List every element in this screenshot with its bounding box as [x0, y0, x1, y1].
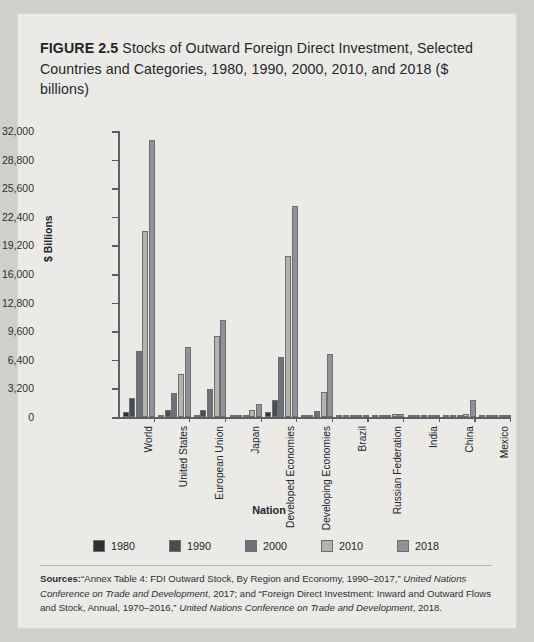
- y-tick-label: 16,000: [2, 268, 34, 280]
- x-tick: [154, 417, 155, 422]
- sources-heading: Sources:: [40, 573, 81, 584]
- x-tick: [403, 417, 404, 422]
- bar-group: [408, 131, 440, 417]
- bar: [379, 415, 385, 417]
- x-tick-label: European Union: [214, 426, 225, 500]
- sources-text-3: , 2018.: [413, 602, 442, 613]
- sources-note: Sources:“Annex Table 4: FDI Outward Stoc…: [40, 572, 496, 616]
- bar: [392, 414, 398, 417]
- bar-group: [265, 131, 297, 417]
- x-tick: [474, 417, 475, 422]
- bar: [327, 354, 333, 417]
- x-axis-line: [118, 417, 511, 419]
- bar: [421, 415, 427, 417]
- bar: [230, 415, 236, 417]
- y-tick-label: 0: [28, 411, 34, 423]
- bar: [292, 206, 298, 417]
- bar: [249, 410, 255, 417]
- y-tick-label: 25,600: [2, 182, 34, 194]
- legend-swatch: [397, 540, 409, 552]
- bar-group: [372, 131, 404, 417]
- bar: [314, 411, 320, 417]
- bar-group: [230, 131, 262, 417]
- chart-legend: 19801990200020102018: [40, 540, 492, 552]
- legend-swatch: [169, 540, 181, 552]
- legend-item[interactable]: 2018: [397, 540, 439, 552]
- x-tick: [439, 417, 440, 422]
- x-tick: [367, 417, 368, 422]
- sources-text-1: “Annex Table 4: FDI Outward Stock, By Re…: [81, 573, 403, 584]
- bar: [443, 415, 449, 417]
- y-axis-title: $ Billions: [42, 215, 54, 262]
- y-tick: [112, 417, 118, 419]
- bar: [321, 392, 327, 417]
- bar: [178, 374, 184, 417]
- x-tick: [510, 417, 511, 422]
- legend-label: 2010: [339, 540, 363, 552]
- bar: [278, 357, 284, 417]
- bar: [301, 415, 307, 417]
- legend-label: 1990: [187, 540, 211, 552]
- bar: [243, 415, 249, 417]
- x-axis-title: Nation: [40, 504, 498, 516]
- bar-group: [158, 131, 190, 417]
- x-tick: [296, 417, 297, 422]
- x-tick-label: China: [464, 426, 475, 453]
- bar: [200, 410, 206, 417]
- x-tick-label: Japan: [250, 426, 261, 454]
- figure-page: FIGURE 2.5 Stocks of Outward Foreign Dir…: [18, 14, 516, 628]
- x-tick-label: Brazil: [357, 426, 368, 451]
- x-tick-label: United States: [178, 426, 189, 487]
- bar: [165, 410, 171, 417]
- bar-group: [194, 131, 226, 417]
- legend-label: 2000: [263, 540, 287, 552]
- bar: [372, 415, 378, 417]
- legend-item[interactable]: 1980: [93, 540, 135, 552]
- bar: [207, 389, 213, 417]
- x-tick-label: India: [428, 426, 439, 448]
- figure-label: FIGURE 2.5: [40, 40, 118, 56]
- bar-group: [123, 131, 155, 417]
- legend-swatch: [245, 540, 257, 552]
- bar: [220, 320, 226, 417]
- figure-title: FIGURE 2.5 Stocks of Outward Foreign Dir…: [40, 38, 492, 100]
- bar: [479, 415, 485, 417]
- bar: [385, 415, 391, 417]
- bar: [307, 415, 313, 417]
- bar-group: [443, 131, 475, 417]
- bar-group: [479, 131, 511, 417]
- y-tick-label: 9,600: [8, 325, 34, 337]
- sources-emphasis-2: United Nations Conference on Trade and D…: [179, 602, 412, 613]
- y-tick-label: 19,200: [2, 239, 34, 251]
- legend-item[interactable]: 2000: [245, 540, 287, 552]
- x-tick: [261, 417, 262, 422]
- bar: [123, 412, 129, 417]
- bar: [408, 415, 414, 417]
- chart-area: $ Billions 03,2006,4009,60012,80016,0001…: [40, 112, 498, 532]
- bar: [185, 347, 191, 417]
- bar: [499, 415, 505, 417]
- legend-item[interactable]: 1990: [169, 540, 211, 552]
- bar: [343, 415, 349, 417]
- bar-group: [336, 131, 368, 417]
- bar: [463, 414, 469, 417]
- x-tick-label: Russian Federation: [392, 426, 403, 514]
- x-tick-label: Mexico: [499, 426, 510, 458]
- bar: [149, 140, 155, 417]
- bar: [428, 415, 434, 417]
- y-tick-label: 12,800: [2, 297, 34, 309]
- legend-item[interactable]: 2010: [321, 540, 363, 552]
- legend-swatch: [93, 540, 105, 552]
- x-tick: [332, 417, 333, 422]
- bar: [158, 415, 164, 417]
- y-tick-label: 32,000: [2, 125, 34, 137]
- bar: [171, 393, 177, 417]
- bar: [350, 415, 356, 417]
- bar: [486, 415, 492, 417]
- y-tick-label: 6,400: [8, 354, 34, 366]
- legend-swatch: [321, 540, 333, 552]
- x-tick: [225, 417, 226, 422]
- bar: [414, 415, 420, 417]
- bar: [136, 351, 142, 417]
- y-tick-label: 3,200: [8, 382, 34, 394]
